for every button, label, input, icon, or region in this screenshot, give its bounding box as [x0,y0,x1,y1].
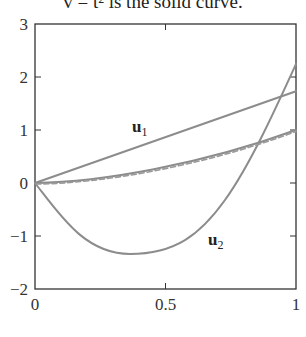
x-tick-1: 1 [292,295,301,314]
curves [35,64,296,254]
x-tick-0: 0 [31,295,40,314]
y-ticks-right [290,77,296,236]
label-u2: u2 [208,230,223,252]
y-tick-1: 1 [20,121,29,140]
curve-v-approx-dashed [36,132,296,185]
label-u1: u1 [132,117,147,139]
y-tick-3: 3 [20,15,29,34]
y-ticks-left [35,77,41,236]
y-tick-labels: 3 2 1 0 −1 −2 [10,15,28,299]
x-tick-0-5: 0.5 [155,295,176,314]
x-tick-labels: 0 0.5 1 [31,295,301,314]
y-tick-0: 0 [20,174,29,193]
y-tick-2: 2 [20,68,29,87]
chart: 3 2 1 0 −1 −2 0 0.5 1 u1 u2 [0,0,306,337]
curve-u2 [35,64,296,254]
y-tick-neg1: −1 [10,227,28,246]
y-tick-neg2: −2 [10,280,28,299]
